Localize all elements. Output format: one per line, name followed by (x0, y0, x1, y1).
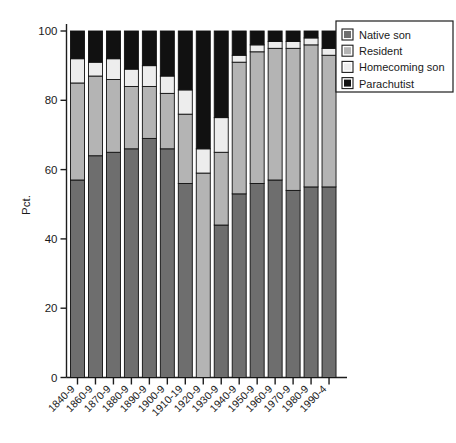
bar-segment (232, 194, 246, 378)
chart-legend: Native sonResidentHomecoming sonParachut… (336, 21, 453, 92)
bar-segment (88, 76, 102, 156)
chart-container: 020406080100 1840-91860-91870-91880-9189… (0, 0, 456, 443)
bar-segment (88, 62, 102, 76)
bar-segment (178, 31, 192, 90)
bar-segment (214, 152, 228, 225)
stacked-bar-chart: 020406080100 1840-91860-91870-91880-9189… (0, 0, 456, 443)
bar-segment (160, 31, 174, 76)
bar-segment (71, 83, 85, 180)
x-axis-ticks: 1840-91860-91870-91880-91890-91900-91910… (45, 378, 329, 419)
bar-segment (268, 48, 282, 180)
bar-segment (250, 183, 264, 377)
legend-swatch-fill (344, 80, 351, 87)
bar-segment (160, 149, 174, 378)
legend-swatch-fill (344, 31, 351, 38)
bar-segment (214, 225, 228, 377)
bar-segment (124, 69, 138, 86)
bar-segment (88, 31, 102, 62)
y-tick-label: 80 (45, 94, 58, 106)
bar-segment (71, 59, 85, 83)
bar-segment (196, 31, 210, 149)
legend-label: Resident (359, 45, 402, 57)
bar-segment (160, 76, 174, 93)
y-tick-label: 100 (38, 25, 57, 37)
bar-segment (178, 114, 192, 183)
bar-segment (71, 31, 85, 59)
legend-label: Homecoming son (359, 61, 445, 73)
bar-segment (322, 31, 336, 48)
bar-segment (286, 190, 300, 377)
bar-segment (232, 55, 246, 62)
bar-segment (196, 173, 210, 377)
bar-segment (71, 180, 85, 378)
y-tick-label: 60 (45, 164, 58, 176)
bar-segment (142, 138, 156, 377)
bar-segment (106, 80, 120, 153)
bar-segment (304, 31, 318, 38)
bar-segment (304, 187, 318, 378)
bar-segment (178, 183, 192, 377)
bar-segment (304, 45, 318, 187)
bar-segment (232, 62, 246, 194)
legend-label: Parachutist (359, 78, 414, 90)
bar-segment (322, 48, 336, 55)
bar-segment (214, 118, 228, 153)
bar-segment (286, 41, 300, 48)
bar-segment (268, 180, 282, 378)
bar-segment (250, 52, 264, 184)
bar-segment (178, 90, 192, 114)
y-tick-label: 0 (51, 372, 57, 384)
bar-segment (160, 93, 174, 148)
bar-segment (268, 31, 282, 41)
bar-segment (124, 31, 138, 69)
bar-segment (286, 31, 300, 41)
y-axis-ticks: 020406080100 (38, 25, 66, 384)
bar-segment (142, 31, 156, 66)
bar-segment (196, 149, 210, 173)
bar-segment (322, 187, 336, 378)
y-tick-label: 40 (45, 233, 58, 245)
legend-swatch-fill (344, 47, 351, 54)
legend-swatch-fill (344, 63, 351, 70)
bar-segment (106, 152, 120, 377)
bar-segment (322, 55, 336, 187)
bar-segment (214, 31, 228, 118)
bar-segment (106, 59, 120, 80)
bar-segment (268, 41, 282, 48)
bar-segment (142, 66, 156, 87)
y-tick-label: 20 (45, 302, 58, 314)
bar-segment (88, 156, 102, 378)
bar-segment (286, 48, 300, 190)
bar-segment (250, 31, 264, 45)
bar-segment (142, 86, 156, 138)
bars-group (71, 31, 337, 378)
y-axis-label: Pct. (20, 195, 32, 215)
bar-segment (304, 38, 318, 45)
bar-segment (106, 31, 120, 59)
bar-segment (232, 31, 246, 55)
bar-segment (124, 149, 138, 378)
bar-segment (124, 86, 138, 148)
legend-label: Native son (359, 29, 411, 41)
bar-segment (250, 45, 264, 52)
